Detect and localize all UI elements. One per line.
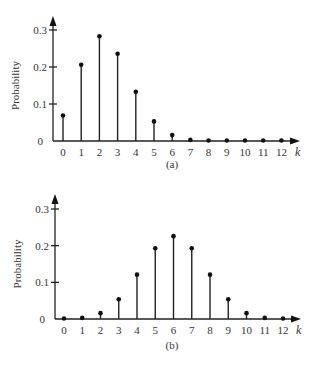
x-tick-label: 8 xyxy=(206,146,212,158)
stem-marker xyxy=(206,138,211,143)
y-axis-title: Probability xyxy=(9,61,21,110)
stem-marker xyxy=(261,138,266,143)
stem-marker xyxy=(171,234,176,239)
stem-marker xyxy=(279,138,284,143)
chart-panel-a: 00.10.20.3Probability0123456789101112k(a… xyxy=(9,16,301,171)
y-axis-title: Probability xyxy=(11,239,23,288)
x-axis-arrow-icon xyxy=(291,316,301,323)
y-tick-label: 0 xyxy=(40,313,46,325)
stem-marker xyxy=(170,133,175,138)
x-tick-label: 7 xyxy=(188,146,194,158)
x-tick-label: 10 xyxy=(241,324,253,336)
stem-marker xyxy=(244,311,249,316)
y-axis-arrow-icon xyxy=(52,194,59,204)
x-tick-label: 1 xyxy=(80,324,86,336)
chart-panel-b: 00.10.20.3Probability0123456789101112k(b… xyxy=(11,194,302,352)
stem-marker xyxy=(116,297,121,302)
x-tick-label: 1 xyxy=(78,146,84,158)
y-axis-arrow-icon xyxy=(50,16,57,26)
stem-marker xyxy=(152,119,157,124)
x-tick-label: 5 xyxy=(153,324,159,336)
stem-marker xyxy=(262,316,267,321)
stem-marker xyxy=(62,316,67,321)
x-tick-label: 2 xyxy=(97,146,103,158)
stem-marker xyxy=(189,246,194,251)
y-tick-label: 0.1 xyxy=(35,276,49,288)
x-tick-label: 6 xyxy=(169,146,175,158)
x-tick-label: 4 xyxy=(134,324,140,336)
stem-marker xyxy=(243,138,248,143)
x-tick-label: 8 xyxy=(207,324,213,336)
stem-marker xyxy=(115,51,120,56)
x-axis-title: k xyxy=(295,145,301,159)
stem-charts: 00.10.20.3Probability0123456789101112k(a… xyxy=(0,0,318,365)
stem-marker xyxy=(153,246,158,251)
stem-marker xyxy=(80,316,85,321)
y-tick-label: 0.1 xyxy=(33,98,47,110)
x-tick-label: 7 xyxy=(189,324,195,336)
x-tick-label: 6 xyxy=(171,324,177,336)
stem-marker xyxy=(226,297,231,302)
x-tick-label: 11 xyxy=(258,146,269,158)
y-tick-label: 0.3 xyxy=(33,24,47,36)
x-tick-label: 4 xyxy=(133,146,139,158)
stem-marker xyxy=(225,138,230,143)
panel-caption: (a) xyxy=(166,158,179,171)
panel-caption: (b) xyxy=(166,339,179,352)
x-tick-label: 12 xyxy=(276,146,287,158)
x-tick-label: 3 xyxy=(115,146,121,158)
stem-marker xyxy=(97,34,102,39)
stem-marker xyxy=(98,311,103,316)
y-tick-label: 0.2 xyxy=(35,240,49,252)
stem-marker xyxy=(135,272,140,277)
x-tick-label: 11 xyxy=(259,324,270,336)
x-tick-label: 10 xyxy=(240,146,252,158)
x-tick-label: 2 xyxy=(98,324,104,336)
x-tick-label: 3 xyxy=(116,324,122,336)
x-tick-label: 9 xyxy=(224,146,230,158)
x-tick-label: 12 xyxy=(278,324,289,336)
x-tick-label: 0 xyxy=(60,146,66,158)
y-tick-label: 0.3 xyxy=(35,203,49,215)
x-axis-title: k xyxy=(296,323,302,337)
stem-marker xyxy=(188,138,193,143)
x-tick-label: 9 xyxy=(226,324,232,336)
x-tick-label: 0 xyxy=(61,324,67,336)
stem-marker xyxy=(79,62,84,67)
x-axis-arrow-icon xyxy=(290,138,300,145)
stem-marker xyxy=(61,113,66,118)
stem-marker xyxy=(281,316,286,321)
y-tick-label: 0.2 xyxy=(33,61,47,73)
x-tick-label: 5 xyxy=(151,146,157,158)
y-tick-label: 0 xyxy=(38,135,44,147)
stem-marker xyxy=(208,272,213,277)
stem-marker xyxy=(134,89,139,94)
